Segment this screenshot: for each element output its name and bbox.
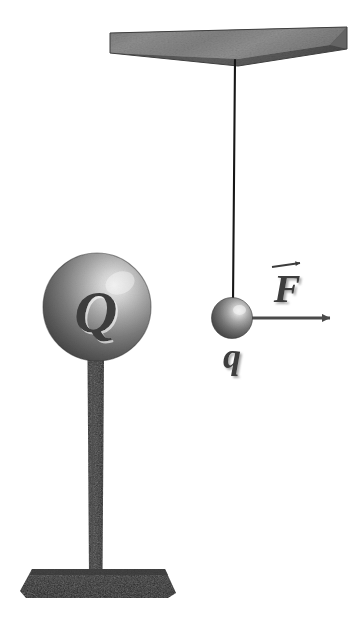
small-charged-sphere — [212, 298, 253, 339]
physics-diagram-figure: Q q F — [0, 0, 352, 621]
stand-post-highlight — [92, 362, 93, 572]
suspension-string — [233, 60, 235, 303]
stand-post — [88, 356, 105, 575]
diagram-canvas: Q q F — [0, 0, 352, 621]
stand-post-body — [88, 356, 105, 575]
force-vector-label-group: F — [272, 263, 301, 311]
stand-base — [20, 569, 176, 598]
small-sphere-specular-highlight — [233, 305, 246, 315]
large-sphere-charge-label: Q — [74, 279, 117, 345]
force-vector-label: F — [273, 266, 301, 311]
ceiling-slab — [110, 27, 347, 66]
stand-base-top-face — [30, 569, 168, 575]
large-charged-sphere: Q — [43, 253, 151, 361]
small-sphere-charge-label: q — [223, 336, 241, 376]
